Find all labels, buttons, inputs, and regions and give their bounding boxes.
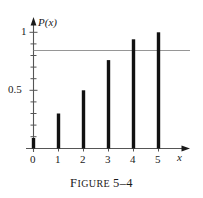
y-tick-label-1: 1 xyxy=(21,26,27,37)
figure-container: P(x) x 1 0.5 0 1 2 3 4 5 FIGURE 5–4 xyxy=(0,0,203,198)
probability-bar-chart xyxy=(0,0,203,198)
y-tick-label-0point5: 0.5 xyxy=(8,84,22,95)
caption-word: IGURE xyxy=(77,178,110,189)
bar-2 xyxy=(82,90,85,148)
bar-0 xyxy=(32,138,35,149)
bar-3 xyxy=(107,60,110,148)
x-tick-label-4: 4 xyxy=(130,154,136,165)
x-axis-arrowhead xyxy=(182,146,191,152)
caption-number: 5–4 xyxy=(113,176,133,190)
bar-series xyxy=(32,32,160,148)
y-axis-arrowhead xyxy=(31,17,37,26)
x-tick-label-1: 1 xyxy=(55,154,61,165)
bar-1 xyxy=(57,114,60,149)
x-axis-title: x xyxy=(177,152,182,163)
bar-5 xyxy=(157,32,160,148)
figure-caption: FIGURE 5–4 xyxy=(0,176,203,191)
x-tick-label-0: 0 xyxy=(30,154,36,165)
x-tick-label-3: 3 xyxy=(105,154,111,165)
y-axis-title: P(x) xyxy=(38,17,57,28)
bar-4 xyxy=(132,39,135,148)
x-tick-label-2: 2 xyxy=(80,154,86,165)
x-tick-label-5: 5 xyxy=(155,154,161,165)
